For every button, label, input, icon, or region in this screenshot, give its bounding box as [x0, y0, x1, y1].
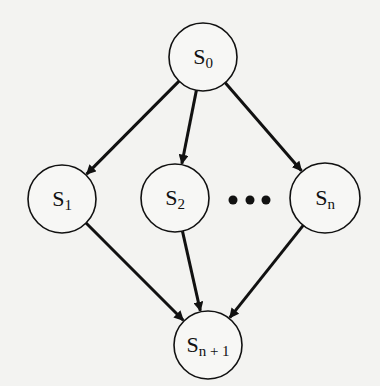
nodes: S0S1S2SnSn + 1: [28, 23, 360, 379]
edge-sn-to-sn1: [230, 225, 303, 317]
edge-s0-to-s1: [87, 81, 179, 174]
edge-s0-to-s2: [182, 90, 197, 163]
edge-s1-to-sn1: [86, 223, 183, 320]
node-sn: Sn: [290, 163, 360, 233]
edge-s0-to-sn: [225, 83, 301, 171]
ellipsis-dot: [229, 196, 238, 205]
edge-s2-to-sn1: [182, 231, 200, 311]
ellipsis-dot: [246, 196, 255, 205]
ellipsis-dots: [229, 196, 271, 205]
state-diagram: S0S1S2SnSn + 1: [0, 0, 380, 386]
node-s2: S2: [141, 164, 209, 232]
node-sn1: Sn + 1: [174, 311, 242, 379]
node-s1: S1: [28, 165, 96, 233]
node-s0: S0: [169, 23, 237, 91]
ellipsis-dot: [262, 196, 271, 205]
